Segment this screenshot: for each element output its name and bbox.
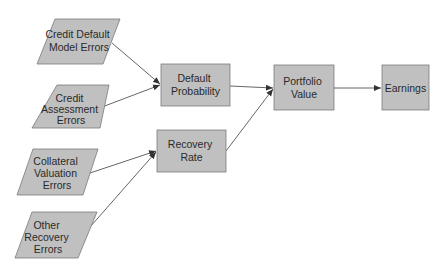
node-credit-assessment-errors: Credit Assessment Errors [32, 85, 109, 128]
node-default-probability: Default Probability [161, 64, 230, 106]
edge-rr-pv [226, 89, 273, 151]
edge-ore-rr [83, 152, 156, 235]
edge-dp-pv [230, 86, 273, 88]
svg-text:Earnings: Earnings [385, 82, 426, 94]
edge-cdme-dp [112, 43, 160, 84]
risk-flow-diagram: Credit Default Model Errors Credit Asses… [0, 0, 442, 272]
node-recovery-rate: Recovery Rate [157, 130, 226, 172]
edges [83, 43, 381, 235]
node-other-recovery-errors: Other Recovery Errors [15, 212, 97, 258]
edge-cae-dp [102, 85, 160, 107]
node-portfolio-value: Portfolio Value [274, 65, 334, 110]
svg-text:Default Probability: Default Probability [171, 72, 221, 97]
edge-cve-rr [90, 151, 156, 173]
node-earnings: Earnings [382, 65, 429, 110]
svg-text:Credit Default Model Err: Credit Default Model Errors [45, 28, 112, 53]
node-collateral-valuation-errors: Collateral Valuation Errors [17, 149, 98, 195]
node-credit-default-model-errors: Credit Default Model Errors [37, 19, 120, 64]
